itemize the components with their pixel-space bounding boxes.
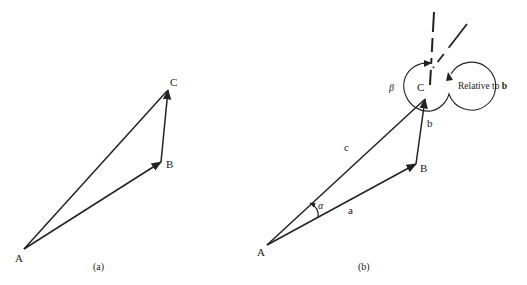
panel-a: A B C (a) xyxy=(15,76,177,273)
point-a-label-b: A xyxy=(257,246,265,258)
vector-addition-diagram: A B C (a) A B C a b c α β Relative to b … xyxy=(0,0,527,285)
vector-a-label: a xyxy=(348,204,353,216)
relative-to-b-label: Relative to b xyxy=(458,81,507,91)
vector-ab-a xyxy=(24,162,161,249)
vector-b-label: b xyxy=(427,117,433,129)
caption-b: (b) xyxy=(358,261,370,273)
panel-b: A B C a b c α β Relative to b (b) xyxy=(257,12,507,273)
angle-alpha-label: α xyxy=(318,200,324,211)
reference-line-relative-b xyxy=(433,24,467,68)
caption-a: (a) xyxy=(93,261,104,273)
point-b-label-b: B xyxy=(420,162,427,174)
relative-prefix: Relative to xyxy=(458,81,502,91)
relative-vector: b xyxy=(502,81,507,91)
vector-bc-a xyxy=(161,90,168,162)
point-b-label-a: B xyxy=(166,158,173,170)
angle-beta-label: β xyxy=(388,82,394,93)
point-c-label-b: C xyxy=(417,81,424,93)
reference-line-vertical xyxy=(430,12,434,85)
vector-ac-a xyxy=(24,91,167,249)
point-c-label-a: C xyxy=(170,76,177,88)
vector-c-label: c xyxy=(344,141,349,153)
point-a-label-a: A xyxy=(15,252,23,264)
